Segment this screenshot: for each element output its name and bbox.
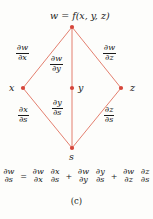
- edge-line-x-s: [23, 88, 72, 148]
- edge-label-denominator: ∂s: [52, 108, 63, 118]
- edge-label-numerator: ∂y: [52, 99, 63, 108]
- edge-label-denominator: ∂s: [18, 115, 29, 125]
- figure-caption: (c): [0, 196, 153, 206]
- equation-denominator: ∂y: [79, 175, 88, 184]
- equation-denominator: ∂s: [96, 175, 104, 184]
- edge-label-dw-dy: ∂w ∂y: [50, 55, 63, 74]
- edge-label-numerator: ∂w: [50, 55, 63, 64]
- node-dot-s: [70, 146, 74, 150]
- plus-sign-1: +: [63, 172, 75, 181]
- chain-rule-tree-figure: w = f(x, y, z) x y z s ∂w ∂x ∂w ∂y ∂w ∂z…: [0, 0, 153, 219]
- edge-label-denominator: ∂z: [103, 53, 116, 63]
- node-label-z: z: [130, 83, 135, 93]
- equation-term-3: ∂w ∂z ∂z ∂s: [120, 168, 153, 185]
- node-dot-z: [119, 86, 123, 90]
- equation-term-2: ∂w ∂y ∂y ∂s: [75, 168, 109, 185]
- node-label-y: y: [78, 83, 83, 93]
- edge-label-numerator: ∂x: [18, 106, 29, 115]
- node-dot-w: [70, 25, 74, 29]
- chain-rule-equation: ∂w ∂s = ∂w ∂x ∂x ∂s + ∂w ∂y ∂y ∂s: [0, 168, 153, 185]
- equation-denominator: ∂s: [5, 175, 13, 184]
- term-factor-1: ∂w ∂y: [75, 168, 92, 185]
- node-label-w: w = f(x, y, z): [50, 11, 110, 21]
- equation-denominator: ∂x: [34, 175, 43, 184]
- node-dot-y: [70, 86, 74, 90]
- node-dot-x: [21, 86, 25, 90]
- equation-lhs-fraction: ∂w ∂s: [1, 168, 18, 185]
- node-label-x: x: [9, 83, 14, 93]
- term-factor-2: ∂x ∂s: [48, 168, 63, 185]
- equation-denominator: ∂z: [125, 175, 133, 184]
- term-factor-1: ∂w ∂x: [30, 168, 47, 185]
- edge-label-numerator: ∂z: [104, 106, 114, 115]
- edge-label-dy-ds: ∂y ∂s: [52, 99, 63, 118]
- edge-label-dw-dz: ∂w ∂z: [103, 44, 116, 63]
- edge-label-numerator: ∂w: [103, 44, 116, 53]
- equation-denominator: ∂s: [141, 175, 149, 184]
- term-factor-1: ∂w ∂z: [120, 168, 137, 185]
- equals-sign: =: [18, 172, 30, 181]
- edge-label-numerator: ∂w: [16, 44, 29, 53]
- edge-label-dx-ds: ∂x ∂s: [18, 106, 29, 125]
- node-label-s: s: [69, 152, 74, 162]
- equation-term-1: ∂w ∂x ∂x ∂s: [29, 168, 63, 185]
- plus-sign-2: +: [108, 172, 120, 181]
- edge-label-dz-ds: ∂z ∂s: [104, 106, 114, 125]
- edge-label-denominator: ∂y: [50, 64, 63, 74]
- equation-denominator: ∂s: [51, 175, 59, 184]
- edge-label-dw-dx: ∂w ∂x: [16, 44, 29, 63]
- term-factor-2: ∂y ∂s: [93, 168, 108, 185]
- edge-line-w-x: [23, 27, 72, 88]
- edge-label-denominator: ∂s: [104, 115, 114, 125]
- term-factor-2: ∂z ∂s: [138, 168, 153, 185]
- edge-label-denominator: ∂x: [16, 53, 29, 63]
